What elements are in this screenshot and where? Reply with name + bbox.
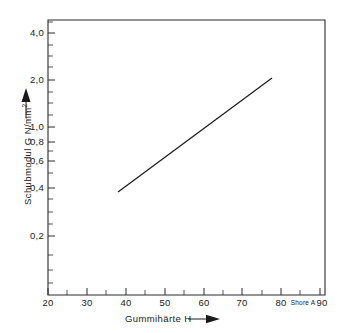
x-tick-label: 70 [236,297,247,308]
x-axis-title: Gummihärte H [125,313,192,324]
x-tick-label: 80 [275,297,286,308]
y-axis-title-text: Schubmodul G N/mm [22,107,33,205]
y-tick-label: 0,2 [30,230,44,241]
x-tick-label: 20 [42,297,53,308]
x-tick-label: 40 [120,297,131,308]
y-axis-title: Schubmodul G N/mm2 [21,103,33,205]
y-axis-title-group: Schubmodul G N/mm2 [21,88,33,205]
chart-figure: 4,0 2,0 1,0 0,8 0,6 0,4 0,2 Schubmodul G… [0,0,341,333]
x-axis-unit-note: Shore A [291,299,316,306]
x-axis-tick-labels: 20 30 40 50 60 70 80 Shore A 90 [42,297,327,308]
x-tick-label: 90 [316,297,327,308]
y-tick-label: 2,0 [30,74,44,85]
y-tick-label: 4,0 [30,27,44,38]
chart-canvas: 4,0 2,0 1,0 0,8 0,6 0,4 0,2 Schubmodul G… [0,0,341,333]
x-tick-label: 30 [81,297,92,308]
y-axis-title-superscript: 2 [21,103,28,107]
x-axis-arrow-icon [188,315,220,323]
x-axis-ticks [48,288,320,295]
series-line-segment [118,78,272,192]
y-axis-ticks [48,22,55,283]
x-tick-label: 50 [159,297,170,308]
plot-frame [48,20,325,295]
data-series-schubmodul [118,78,272,192]
x-axis-title-group: Gummihärte H [125,313,220,324]
x-tick-label: 60 [198,297,209,308]
